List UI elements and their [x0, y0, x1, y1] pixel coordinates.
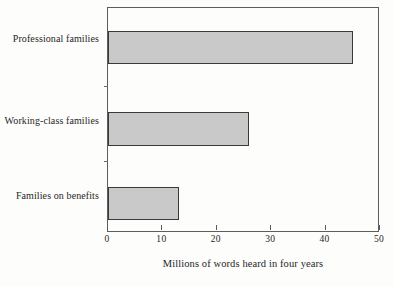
bar-professional-families — [108, 31, 353, 64]
plot-area — [107, 7, 379, 232]
category-label-professional-families: Professional families — [13, 33, 99, 44]
x-axis-tick-label: 30 — [265, 234, 275, 244]
x-axis-tick — [161, 225, 162, 230]
category-label-families-on-benefits: Families on benefits — [16, 190, 99, 201]
bar-working-class-families — [108, 112, 249, 146]
x-axis-tick-label: 40 — [320, 234, 330, 244]
y-axis-tick — [104, 161, 108, 162]
x-axis-tick — [379, 225, 380, 230]
x-axis-tick-label: 0 — [104, 234, 109, 244]
x-axis-tick — [270, 225, 271, 230]
x-axis-tick — [107, 225, 108, 230]
bar-families-on-benefits — [108, 187, 179, 220]
x-axis-title: Millions of words heard in four years — [107, 258, 379, 269]
x-axis-tick-label: 10 — [156, 234, 166, 244]
x-axis-tick-label: 20 — [211, 234, 221, 244]
x-axis-tick — [325, 225, 326, 230]
x-axis-tick-label: 50 — [374, 234, 384, 244]
x-axis-tick — [216, 225, 217, 230]
category-label-working-class-families: Working-class families — [5, 115, 99, 126]
y-axis-tick — [104, 86, 108, 87]
bar-chart-figure: Professional families Working-class fami… — [0, 0, 394, 286]
